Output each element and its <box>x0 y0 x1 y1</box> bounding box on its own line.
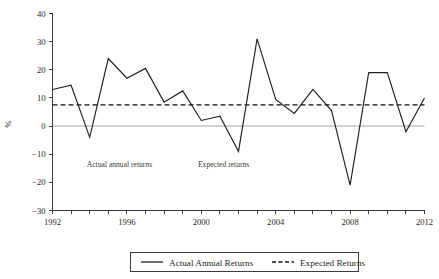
annual-returns-line-chart: −30−20−10010203040 199219962000200420082… <box>0 0 439 279</box>
chart-background <box>0 0 439 279</box>
y-tick-label: 40 <box>37 9 46 19</box>
y-tick-label: 10 <box>37 93 46 103</box>
y-tick-label: −10 <box>32 149 45 159</box>
x-tick-label: 2004 <box>267 217 285 227</box>
y-tick-label: 30 <box>37 37 46 47</box>
x-tick-label: 2000 <box>193 217 210 227</box>
y-tick-label: 20 <box>37 65 46 75</box>
plot-annotation: Actual annual returns <box>87 160 152 169</box>
chart-legend: Actual Annual Returns Expected Returns <box>131 253 366 272</box>
plot-annotation: Expected returns <box>198 160 249 169</box>
legend-label-actual-annual-returns: Actual Annual Returns <box>169 258 254 268</box>
chart-figure: −30−20−10010203040 199219962000200420082… <box>0 0 439 279</box>
x-tick-label: 2012 <box>416 217 433 227</box>
y-tick-label: 0 <box>41 121 45 131</box>
y-tick-label: −30 <box>32 206 45 216</box>
x-tick-label: 2008 <box>342 217 359 227</box>
x-tick-label: 1996 <box>118 217 136 227</box>
x-tick-label: 1992 <box>44 217 61 227</box>
y-axis-title: % <box>4 120 13 127</box>
legend-label-expected-returns: Expected Returns <box>300 258 365 268</box>
y-tick-label: −20 <box>32 177 45 187</box>
